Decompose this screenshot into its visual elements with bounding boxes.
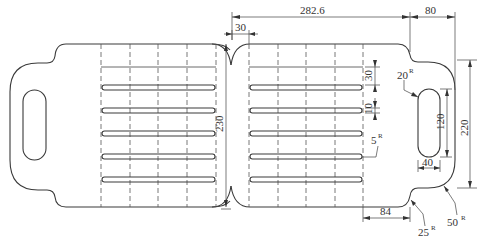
drawing-svg: 282.6 80 30 230 30 — [0, 0, 479, 242]
left-slats — [102, 85, 215, 182]
svg-text:R: R — [461, 214, 466, 222]
dim-slat-radius: 5 R — [362, 132, 383, 157]
svg-text:120: 120 — [434, 113, 446, 130]
svg-text:84: 84 — [380, 205, 392, 217]
svg-text:10: 10 — [362, 103, 374, 115]
svg-text:80: 80 — [425, 4, 437, 16]
dim-slot-radius: 20 R — [397, 67, 418, 97]
svg-text:50: 50 — [447, 216, 459, 228]
dim-tab-length: 80 — [410, 4, 455, 90]
dim-corner-radius: 25 R — [411, 200, 436, 238]
left-handle-slot — [23, 90, 46, 160]
svg-text:R: R — [378, 132, 383, 140]
svg-text:30: 30 — [235, 21, 247, 33]
svg-text:20: 20 — [397, 69, 409, 81]
dim-slat-spacing: 30 — [362, 60, 380, 92]
svg-text:5: 5 — [371, 134, 377, 146]
svg-text:282.6: 282.6 — [300, 4, 325, 16]
svg-text:R: R — [409, 67, 414, 75]
dim-slot-width: 40 — [418, 156, 440, 172]
dim-tab-radius: 50 R — [444, 186, 466, 228]
svg-text:30: 30 — [362, 70, 374, 82]
dim-slot-length: 120 — [434, 89, 452, 157]
left-cusp-top — [212, 44, 231, 65]
dim-overall-half-length: 282.6 — [232, 4, 410, 52]
dim-slat-width: 10 — [362, 98, 380, 120]
svg-text:230: 230 — [213, 115, 225, 132]
left-cusp-bottom — [212, 186, 231, 207]
svg-text:25: 25 — [418, 226, 430, 238]
svg-text:R: R — [431, 224, 436, 232]
svg-text:40: 40 — [422, 156, 434, 168]
technical-drawing: 282.6 80 30 230 30 — [0, 0, 479, 242]
svg-text:220: 220 — [458, 119, 470, 136]
dim-tab-height: 220 — [457, 60, 477, 188]
dim-center-offset: 30 — [224, 21, 258, 44]
